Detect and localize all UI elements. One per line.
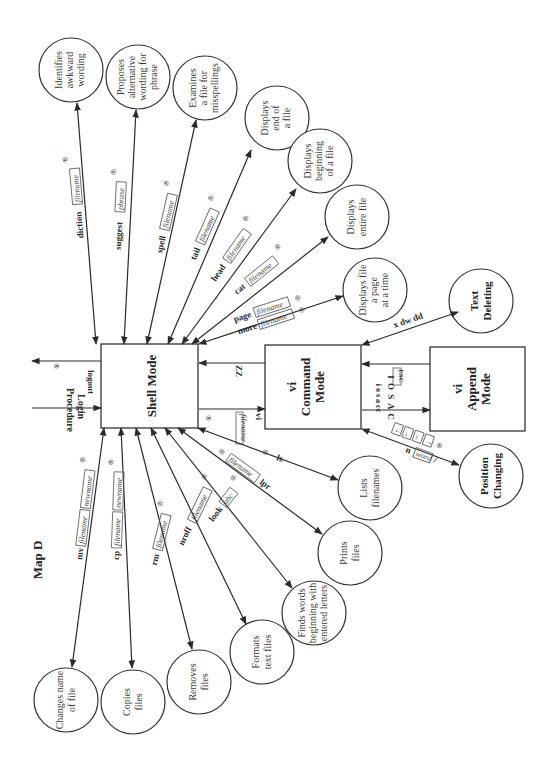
svg-text:diction: diction xyxy=(73,211,85,238)
svg-text:Mode: Mode xyxy=(312,371,327,403)
svg-text:vi: vi xyxy=(254,413,264,421)
svg-text:Login: Login xyxy=(76,394,87,419)
svg-text:wording for: wording for xyxy=(137,53,148,101)
svg-text:Copies: Copies xyxy=(121,688,132,716)
svg-text:cp: cp xyxy=(111,551,121,560)
svg-text:a file: a file xyxy=(281,107,292,128)
vi-command-mode-box: vi Command Mode xyxy=(265,345,361,429)
position-changing-node: Position Changing xyxy=(459,444,523,508)
edge-look: look abc ® xyxy=(165,428,292,588)
svg-text:Shell Mode: Shell Mode xyxy=(144,355,159,418)
svg-text:filename: filename xyxy=(197,214,217,243)
vi-append-mode-box: vi Append Mode xyxy=(430,347,525,431)
svg-text:wording: wording xyxy=(75,53,86,86)
svg-text:®: ® xyxy=(216,447,226,458)
shell-mode-box: Shell Mode xyxy=(101,344,198,428)
unix-command-map-diagram: Map D Shell Mode vi Command Mode vi Appe… xyxy=(0,0,553,767)
svg-text:®: ® xyxy=(52,363,60,370)
svg-text:vi: vi xyxy=(450,384,465,395)
svg-text:®: ® xyxy=(293,294,302,304)
map-title: Map D xyxy=(30,541,45,580)
append-commands-edge: I O S A C i o s a cc xyxy=(362,375,430,421)
svg-text:abc: abc xyxy=(221,491,235,506)
circle-head: Displays beginning of a file xyxy=(288,129,352,193)
svg-text:Mode: Mode xyxy=(478,373,493,405)
svg-text:a page: a page xyxy=(368,277,379,303)
svg-text:Deleting: Deleting xyxy=(481,281,493,321)
svg-text:lpr: lpr xyxy=(258,477,273,492)
circle-cat: Displays entire file xyxy=(325,185,389,249)
svg-text:Prints: Prints xyxy=(338,541,349,564)
svg-text:Displays file: Displays file xyxy=(357,264,368,315)
svg-text:beginning with: beginning with xyxy=(307,583,318,643)
svg-text:®: ® xyxy=(435,441,444,451)
svg-text:text files: text files xyxy=(262,635,273,670)
svg-text:filename: filename xyxy=(154,519,170,548)
svg-text:®: ® xyxy=(273,242,283,253)
svg-text:cat: cat xyxy=(232,281,247,296)
circle-cp: Copies files xyxy=(101,670,165,734)
circle-suggest: Proposes alternative wording for phrase xyxy=(106,45,170,109)
circle-mv: Changes name of file xyxy=(34,668,98,732)
svg-text:I O S A C: I O S A C xyxy=(386,375,396,421)
svg-text:®: ® xyxy=(206,193,216,203)
vi-filename-edge: vi filename ® xyxy=(199,409,265,444)
zz-edge: ZZ xyxy=(199,363,265,377)
svg-text:i o s a cc: i o s a cc xyxy=(374,384,383,413)
svg-text:spell: spell xyxy=(154,234,168,254)
edge-suggest: suggest phrase ® xyxy=(106,110,136,344)
circle-lpr: Prints files xyxy=(318,521,382,585)
svg-text:nroff: nroff xyxy=(176,524,194,547)
svg-text:filename: filename xyxy=(112,518,122,546)
svg-text:®: ® xyxy=(61,156,70,164)
svg-text:®: ® xyxy=(228,473,239,483)
svg-text:more: more xyxy=(236,321,258,337)
svg-text:®: ® xyxy=(110,168,118,175)
svg-text:awkward: awkward xyxy=(64,52,75,89)
login-edge: Login Procedure xyxy=(32,388,101,433)
svg-text:Procedure: Procedure xyxy=(65,388,76,433)
svg-text:files: files xyxy=(133,693,144,710)
edge-page-more: page filename ® more filename ® xyxy=(199,293,343,344)
svg-text:Displays: Displays xyxy=(302,143,313,178)
svg-text:vi: vi xyxy=(284,382,299,393)
svg-text:Finds words: Finds words xyxy=(296,588,307,637)
svg-text:®: ® xyxy=(261,448,270,458)
svg-text:®: ® xyxy=(156,499,165,508)
svg-text:beginning: beginning xyxy=(313,141,324,181)
edge-mv: mv filename newname ® xyxy=(67,428,104,667)
edge-lpr: lpr filename ® xyxy=(178,428,322,534)
svg-text:Map D: Map D xyxy=(30,541,45,580)
svg-text:mv: mv xyxy=(74,547,85,561)
svg-text:Removes: Removes xyxy=(187,663,198,700)
svg-text:phrase: phrase xyxy=(116,187,126,211)
edge-cp: cp filename newname ® xyxy=(104,428,132,668)
svg-text:®: ® xyxy=(241,214,252,224)
svg-text:ESC: ESC xyxy=(397,369,405,383)
svg-text:filenames: filenames xyxy=(370,468,381,507)
svg-text:←: ← xyxy=(393,425,404,436)
svg-text:Displays: Displays xyxy=(345,199,356,234)
svg-text:→: → xyxy=(424,436,435,447)
svg-text:rm: rm xyxy=(149,552,162,566)
edge-diction: diction filename ® xyxy=(61,103,96,344)
svg-text:Proposes: Proposes xyxy=(115,59,126,95)
circle-spell: Examines a file for misspellings xyxy=(173,56,237,120)
svg-text:®: ® xyxy=(204,415,212,422)
svg-text:head: head xyxy=(209,262,228,283)
svg-text:files: files xyxy=(350,544,361,561)
circle-rm: Removes files xyxy=(167,650,231,714)
svg-text:tail: tail xyxy=(188,245,202,261)
svg-text:Changes name: Changes name xyxy=(54,670,65,729)
svg-text:Append: Append xyxy=(464,366,479,411)
svg-text:Position: Position xyxy=(478,457,490,495)
svg-text:®: ® xyxy=(79,456,88,464)
svg-text:®: ® xyxy=(297,306,306,316)
svg-text:Formats: Formats xyxy=(250,636,261,669)
svg-text:Text: Text xyxy=(468,290,480,311)
svg-text:at a time: at a time xyxy=(379,272,390,307)
svg-text:suggest: suggest xyxy=(113,222,124,251)
circle-diction: Identifies awkward wording xyxy=(39,38,103,102)
svg-text:of a file: of a file xyxy=(324,145,335,177)
svg-text:logout: logout xyxy=(86,370,96,394)
